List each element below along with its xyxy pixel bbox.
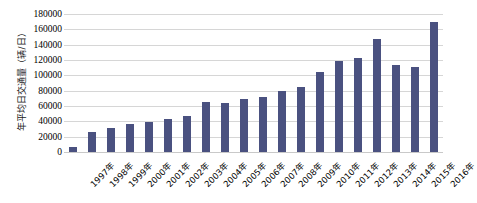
y-axis-tick-label: 20000 — [14, 132, 62, 142]
y-axis-tick-label: 140000 — [14, 40, 62, 50]
bar[interactable] — [164, 119, 172, 152]
x-axis-tick-label: 2005年 — [216, 153, 235, 171]
bar-slot — [424, 14, 443, 152]
x-axis-tick-label: 2013年 — [367, 153, 386, 171]
bar[interactable] — [278, 91, 286, 152]
bar[interactable] — [354, 58, 362, 152]
x-axis-tick-label: 1998年 — [83, 153, 102, 171]
bar[interactable] — [107, 128, 115, 152]
y-axis-tick-label: 180000 — [14, 9, 62, 19]
x-axis-tick-label: 2000年 — [121, 153, 140, 171]
bar-slot — [178, 14, 197, 152]
x-axis-tick-label: 2014年 — [386, 153, 405, 171]
bar[interactable] — [411, 67, 419, 152]
bar-slot — [216, 14, 235, 152]
bar-slot — [272, 14, 291, 152]
y-axis-tick-label: 160000 — [14, 24, 62, 34]
x-axis-tick-label: 2012年 — [348, 153, 367, 171]
bar[interactable] — [259, 97, 267, 152]
bar-slot — [310, 14, 329, 152]
bar-slot — [83, 14, 102, 152]
y-axis-tick-label: 120000 — [14, 55, 62, 65]
bar[interactable] — [335, 61, 343, 152]
bar-slot — [159, 14, 178, 152]
plot-area — [64, 14, 443, 152]
bar[interactable] — [221, 103, 229, 152]
bar-slot — [367, 14, 386, 152]
x-axis-tick-label: 2001年 — [140, 153, 159, 171]
x-axis-tick-label: 2009年 — [291, 153, 310, 171]
x-axis-tick-label: 2015年 — [405, 153, 424, 171]
y-axis-tick-label: 40000 — [14, 116, 62, 126]
y-axis-tick-labels: 0200004000060000800001000001200001400001… — [14, 14, 62, 152]
x-axis-tick-label: 2006年 — [235, 153, 254, 171]
bar-slot — [102, 14, 121, 152]
bar[interactable] — [202, 102, 210, 152]
x-axis-tick-label: 2010年 — [310, 153, 329, 171]
bar-slot — [348, 14, 367, 152]
bar-slot — [140, 14, 159, 152]
y-axis-tick-label: 0 — [14, 147, 62, 157]
y-axis-tick-label: 80000 — [14, 86, 62, 96]
bar[interactable] — [240, 99, 248, 152]
bar-slot — [254, 14, 273, 152]
x-axis-tick-label: 2004年 — [197, 153, 216, 171]
bar[interactable] — [183, 116, 191, 152]
bar[interactable] — [88, 132, 96, 152]
x-axis-tick-label: 2002年 — [159, 153, 178, 171]
bar-slot — [197, 14, 216, 152]
y-axis-tick-label: 100000 — [14, 70, 62, 80]
x-axis-tick-label: 1997年 — [64, 153, 83, 171]
x-axis-tick-label: 2003年 — [178, 153, 197, 171]
bar-slot — [235, 14, 254, 152]
x-axis-tick-label: 2008年 — [272, 153, 291, 171]
y-axis-tick-label: 60000 — [14, 101, 62, 111]
x-axis-tick-label: 1999年 — [102, 153, 121, 171]
x-axis-tick-label: 2007年 — [254, 153, 273, 171]
bar[interactable] — [430, 22, 438, 152]
bar-slot — [291, 14, 310, 152]
x-axis-tick-label: 2016年 — [424, 153, 443, 171]
bar[interactable] — [297, 87, 305, 152]
x-axis-tick-label: 2011年 — [329, 153, 348, 171]
bars-layer — [64, 14, 443, 152]
bar[interactable] — [69, 147, 77, 152]
bar-slot — [64, 14, 83, 152]
bar[interactable] — [126, 124, 134, 152]
bar-slot — [329, 14, 348, 152]
bar[interactable] — [145, 122, 153, 152]
bar[interactable] — [392, 65, 400, 152]
bar-slot — [121, 14, 140, 152]
bar-slot — [386, 14, 405, 152]
bar[interactable] — [373, 39, 381, 152]
x-axis-tick-labels: 1997年1998年1999年2000年2001年2002年2003年2004年… — [64, 153, 443, 203]
bar[interactable] — [316, 72, 324, 152]
bar-slot — [405, 14, 424, 152]
